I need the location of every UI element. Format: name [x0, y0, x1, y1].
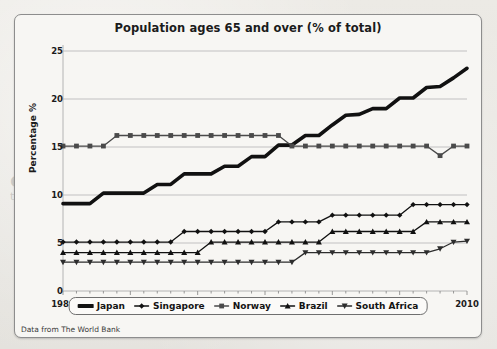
legend-item-japan[interactable]: Japan: [78, 301, 125, 311]
data-point-marker: [74, 239, 79, 244]
legend-item-brazil[interactable]: Brazil: [280, 301, 328, 311]
data-point-marker: [195, 133, 200, 138]
data-point-marker: [276, 133, 281, 138]
data-point-marker: [101, 144, 106, 149]
legend-label: Singapore: [153, 302, 205, 311]
data-point-marker: [316, 144, 321, 149]
data-point-marker: [139, 303, 144, 308]
legend-label: Brazil: [299, 302, 328, 311]
data-point-marker: [370, 212, 375, 217]
data-point-marker: [74, 144, 79, 149]
data-point-marker: [141, 239, 146, 244]
data-point-marker: [289, 219, 294, 224]
data-point-marker: [303, 219, 308, 224]
data-point-marker: [128, 133, 133, 138]
data-point-marker: [101, 239, 106, 244]
y-axis-tick-label: 0: [37, 286, 63, 296]
data-point-marker: [114, 133, 119, 138]
data-point-marker: [343, 212, 348, 217]
data-point-marker: [411, 144, 416, 149]
data-point-marker: [437, 202, 442, 207]
series-line: [63, 135, 467, 155]
data-point-marker: [384, 144, 389, 149]
data-point-marker: [330, 212, 335, 217]
legend-label: South Africa: [356, 302, 419, 311]
y-axis-tick-label: 25: [37, 46, 63, 56]
data-point-marker: [141, 133, 146, 138]
square-icon: [214, 301, 230, 311]
legend-item-singapore[interactable]: Singapore: [134, 301, 205, 311]
data-point-marker: [465, 144, 470, 149]
legend-item-south-africa[interactable]: South Africa: [337, 301, 419, 311]
y-axis-ticks: 0510152025: [35, 15, 63, 337]
data-point-marker: [370, 144, 375, 149]
data-point-marker: [155, 239, 160, 244]
data-point-marker: [451, 202, 456, 207]
y-axis-tick-label: 5: [37, 238, 63, 248]
data-point-marker: [357, 212, 362, 217]
series-line: [63, 205, 467, 242]
data-point-marker: [222, 229, 227, 234]
data-point-marker: [316, 219, 321, 224]
data-point-marker: [249, 133, 254, 138]
triangle-down-icon: [337, 301, 353, 311]
data-point-marker: [357, 144, 362, 149]
series-line: [63, 222, 467, 253]
data-point-marker: [155, 133, 160, 138]
data-point-marker: [464, 202, 469, 207]
data-point-marker: [303, 144, 308, 149]
legend-label: Japan: [97, 302, 125, 311]
data-point-marker: [424, 144, 429, 149]
plot-area: Percentage % 0510152025 1980198519901995…: [15, 15, 481, 337]
y-axis-tick-label: 10: [37, 190, 63, 200]
legend-item-norway[interactable]: Norway: [214, 301, 271, 311]
y-axis-tick-label: 20: [37, 94, 63, 104]
data-point-marker: [114, 239, 119, 244]
data-point-marker: [209, 133, 214, 138]
data-point-marker: [424, 202, 429, 207]
thick-line-icon: [78, 301, 94, 311]
legend-label: Norway: [233, 302, 271, 311]
data-point-marker: [182, 133, 187, 138]
x-axis-tick-label: 2010: [455, 299, 479, 309]
data-point-marker: [330, 144, 335, 149]
data-point-marker: [208, 229, 213, 234]
diamond-icon: [134, 301, 150, 311]
triangle-up-icon: [280, 301, 296, 311]
data-point-marker: [219, 304, 224, 309]
data-point-marker: [249, 229, 254, 234]
data-point-marker: [384, 212, 389, 217]
data-point-marker: [88, 144, 93, 149]
data-point-marker: [222, 133, 227, 138]
data-point-marker: [236, 133, 241, 138]
chart-figure: Population ages 65 and over (% of total)…: [14, 14, 482, 338]
series-singapore: [60, 202, 469, 245]
y-axis-tick-label: 15: [37, 142, 63, 152]
data-point-marker: [87, 239, 92, 244]
data-point-marker: [168, 133, 173, 138]
data-point-marker: [343, 144, 348, 149]
data-point-marker: [397, 144, 402, 149]
source-note: Data from The World Bank: [21, 325, 120, 334]
data-point-marker: [451, 144, 456, 149]
series-brazil: [60, 219, 470, 255]
chart-legend: JapanSingaporeNorwayBrazilSouth Africa: [69, 297, 428, 315]
data-point-marker: [195, 229, 200, 234]
data-point-marker: [263, 133, 268, 138]
data-point-marker: [128, 239, 133, 244]
data-point-marker: [438, 153, 443, 158]
data-point-marker: [290, 144, 295, 149]
chart-canvas: [15, 15, 481, 337]
data-point-marker: [235, 229, 240, 234]
